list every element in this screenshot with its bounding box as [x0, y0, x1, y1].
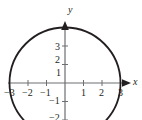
- x-tick-label-3: 3: [118, 88, 123, 98]
- y-tick-label-2: 2: [55, 55, 60, 65]
- x-tick-label-2: 2: [99, 88, 104, 98]
- x-tick-label-1: 1: [81, 88, 86, 98]
- x-tick-label-neg2: −2: [22, 88, 33, 98]
- y-tick-label-neg2: −2: [49, 113, 60, 120]
- x-axis-label: x: [133, 77, 137, 87]
- y-axis-arrowhead: [61, 21, 69, 30]
- y-axis-label: y: [68, 5, 72, 15]
- y-tick-label-1: 1: [56, 68, 61, 78]
- y-tick-label-3: 3: [55, 42, 60, 52]
- x-tick-label-neg3: −3: [4, 88, 15, 98]
- coordinate-plane-svg: [0, 0, 142, 120]
- y-tick-label-neg1: −1: [49, 96, 60, 106]
- circle-graph-figure: −3 −2 −1 1 2 3 3 2 1 −1 −2 x y: [0, 0, 142, 120]
- x-axis-arrowhead: [122, 79, 131, 87]
